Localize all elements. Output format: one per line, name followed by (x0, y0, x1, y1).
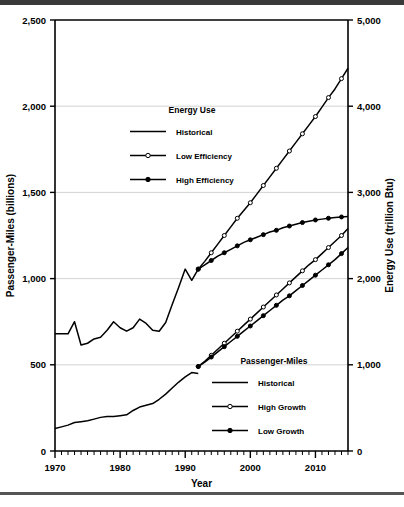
series-marker-open (300, 269, 304, 273)
x-axis-title: Year (191, 478, 212, 489)
series-marker-filled (326, 263, 330, 267)
legend-passenger-miles-swatch-marker (228, 428, 232, 432)
legend-energy-use-title: Energy Use (169, 105, 216, 115)
series-marker-filled (274, 228, 278, 232)
series-line-energy-use-high-efficiency (198, 217, 348, 270)
xtick-label: 1980 (110, 462, 131, 473)
series-marker-open (222, 234, 226, 238)
series-marker-open (235, 329, 239, 333)
series-marker-open (300, 132, 304, 136)
legend-passenger-miles-item-label: Low Growth (258, 427, 304, 436)
series-marker-open (287, 281, 291, 285)
ytick-label-right: 4,000 (357, 101, 381, 112)
series-marker-filled (313, 273, 317, 277)
series-line-passenger-miles-high-growth (198, 229, 348, 367)
series-marker-open (261, 305, 265, 309)
series-marker-open (261, 184, 265, 188)
xtick-label: 1990 (175, 462, 196, 473)
series-marker-filled (274, 303, 278, 307)
legend-energy-use-item-label: Low Efficiency (176, 152, 233, 161)
series-marker-filled (222, 251, 226, 255)
y-axis-title-left: Passenger-Miles (billions) (5, 174, 16, 297)
series-marker-open (339, 77, 343, 81)
series-marker-open (313, 258, 317, 262)
chart-canvas: 05001,0001,5002,0002,50001,0002,0003,000… (0, 0, 404, 492)
series-marker-filled (235, 244, 239, 248)
legend-passenger-miles-title: Passenger-Miles (240, 356, 307, 366)
ytick-label-right: 2,000 (357, 273, 381, 284)
series-marker-open (326, 96, 330, 100)
series-marker-filled (313, 218, 317, 222)
legend-passenger-miles-item-label: Historical (258, 379, 294, 388)
y-axis-title-right: Energy Use (trillion Btu) (384, 178, 395, 292)
ytick-label-right: 1,000 (357, 359, 381, 370)
legend-energy-use-swatch-marker (146, 153, 150, 157)
xtick-label: 2010 (305, 462, 326, 473)
series-marker-filled (235, 334, 239, 338)
chart-figure: 05001,0001,5002,0002,50001,0002,0003,000… (0, 0, 404, 507)
ytick-label-left: 0 (41, 446, 46, 457)
series-marker-open (313, 115, 317, 119)
series-line-energy-use-low-efficiency (198, 68, 348, 269)
series-marker-filled (248, 238, 252, 242)
series-marker-open (339, 234, 343, 238)
ytick-label-right: 5,000 (357, 15, 381, 26)
legend-passenger-miles-item-label: High Growth (258, 403, 306, 412)
series-marker-filled (326, 216, 330, 220)
ytick-label-right: 0 (357, 446, 362, 457)
legend-energy-use-item-label: High Efficiency (176, 176, 234, 185)
series-marker-filled (209, 258, 213, 262)
legend-energy-use-item-label: Historical (176, 128, 212, 137)
series-marker-filled (209, 355, 213, 359)
series-marker-filled (196, 267, 200, 271)
series-line-energy-use-historical (55, 269, 198, 345)
series-marker-filled (339, 252, 343, 256)
ytick-label-right: 3,000 (357, 187, 381, 198)
series-marker-filled (339, 215, 343, 219)
ytick-label-left: 500 (30, 359, 46, 370)
series-marker-open (209, 251, 213, 255)
series-marker-filled (261, 314, 265, 318)
series-marker-filled (248, 324, 252, 328)
legend-passenger-miles-swatch-marker (228, 404, 232, 408)
series-marker-open (274, 166, 278, 170)
series-marker-open (248, 317, 252, 321)
series-marker-filled (287, 294, 291, 298)
series-marker-filled (300, 283, 304, 287)
series-marker-filled (287, 224, 291, 228)
series-marker-open (326, 246, 330, 250)
xtick-label: 1970 (44, 462, 65, 473)
series-marker-open (235, 216, 239, 220)
series-marker-filled (196, 365, 200, 369)
legend-energy-use-swatch-marker (146, 177, 150, 181)
series-marker-open (274, 293, 278, 297)
ytick-label-left: 2,500 (22, 15, 46, 26)
series-marker-filled (261, 233, 265, 237)
ytick-label-left: 1,000 (22, 273, 46, 284)
xtick-label: 2000 (240, 462, 261, 473)
series-marker-filled (222, 345, 226, 349)
series-marker-open (248, 201, 252, 205)
series-line-passenger-miles-low-growth (198, 248, 348, 367)
page-bottom-rule (0, 492, 404, 495)
series-marker-open (287, 149, 291, 153)
ytick-label-left: 2,000 (22, 101, 46, 112)
ytick-label-left: 1,500 (22, 187, 46, 198)
series-marker-filled (300, 221, 304, 225)
series-line-passenger-miles-historical (55, 373, 198, 429)
